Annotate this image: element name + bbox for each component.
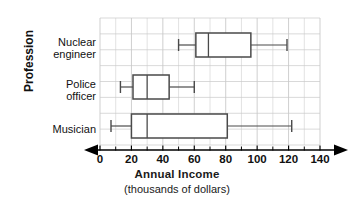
category-label-line-2: engineer (28, 49, 96, 61)
axis-arrow-right-icon (334, 145, 348, 156)
boxplot-nuclear-engineer (179, 33, 287, 57)
x-axis-tick-label: 140 (310, 153, 329, 165)
x-axis-subtitle: (thousands of dollars) (0, 183, 354, 195)
category-label-line-1: Nuclear (28, 37, 96, 49)
category-label-line-1: Police (28, 79, 96, 91)
x-axis-tick-label: 120 (279, 153, 298, 165)
box (131, 114, 227, 138)
boxplot-figure: Profession Nuclear engineer Police offic… (0, 0, 354, 203)
category-label-musician: Musician (28, 124, 96, 136)
x-axis-tick-label: 0 (97, 153, 103, 165)
x-axis-title: Annual Income (0, 168, 354, 180)
x-axis-tick-label: 40 (156, 153, 169, 165)
x-axis-tick-label: 100 (248, 153, 267, 165)
x-axis-tick-label: 20 (125, 153, 138, 165)
boxplot-musician (111, 114, 292, 138)
category-labels: Nuclear engineer Police officer Musician (28, 18, 96, 145)
category-label-line-2: officer (28, 91, 96, 103)
category-label-police-officer: Police officer (28, 79, 96, 102)
x-axis-tick-label: 80 (219, 153, 232, 165)
x-axis: 020406080100120140 (84, 145, 348, 166)
box (133, 75, 169, 99)
box (196, 33, 251, 57)
x-axis-tick-label: 60 (188, 153, 201, 165)
category-label-line-1: Musician (28, 124, 96, 136)
category-label-nuclear-engineer: Nuclear engineer (28, 37, 96, 60)
